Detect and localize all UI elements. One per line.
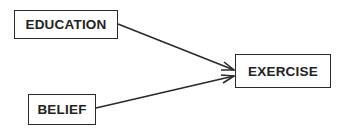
node-label: EXERCISE <box>248 64 318 79</box>
node-education: EDUCATION <box>14 10 118 39</box>
node-label: EDUCATION <box>25 17 106 32</box>
node-label: BELIEF <box>37 102 86 117</box>
node-belief: BELIEF <box>28 94 96 125</box>
node-exercise: EXERCISE <box>235 54 331 88</box>
edge-education-to-exercise <box>118 24 234 70</box>
edge-belief-to-exercise <box>96 75 234 108</box>
